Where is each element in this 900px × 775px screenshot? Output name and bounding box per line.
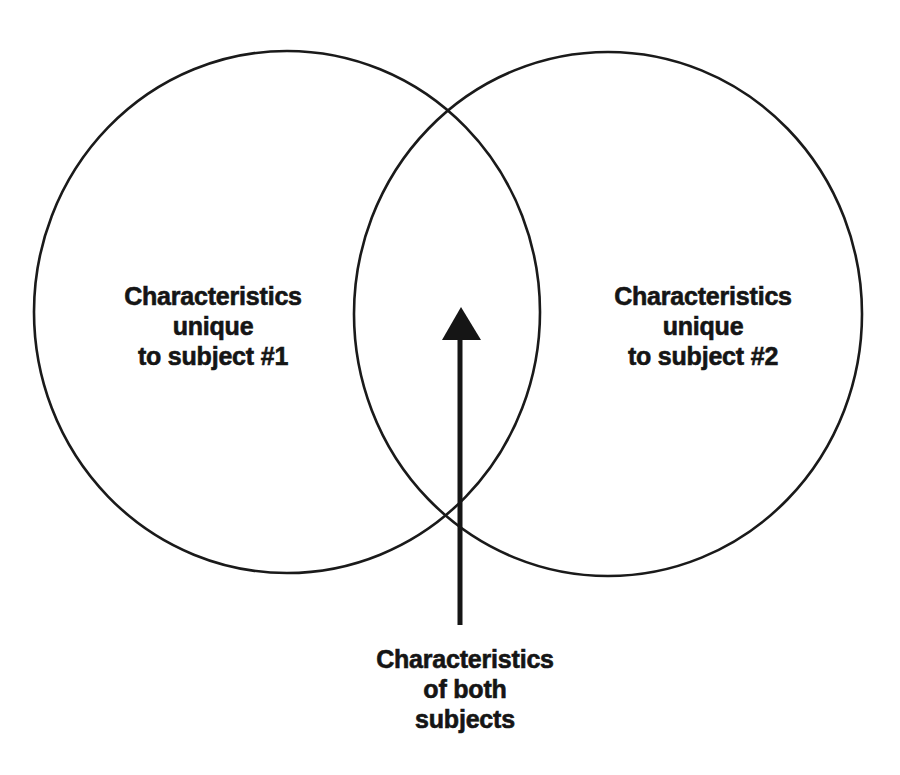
arrow-shaft bbox=[458, 336, 463, 625]
label-both-line-1: Characteristics bbox=[376, 644, 554, 674]
arrow-up-icon bbox=[442, 307, 481, 625]
label-both-subjects: Characteristics of both subjects bbox=[376, 644, 554, 734]
label-subject-1-line-1: Characteristics bbox=[124, 281, 302, 311]
label-subject-1-line-2: unique bbox=[124, 311, 302, 341]
label-subject-2-line-2: unique bbox=[614, 311, 792, 341]
arrow-head bbox=[442, 307, 481, 340]
label-subject-1: Characteristics unique to subject #1 bbox=[124, 281, 302, 371]
label-both-line-2: of both bbox=[376, 674, 554, 704]
label-subject-1-line-3: to subject #1 bbox=[124, 341, 302, 371]
label-subject-2: Characteristics unique to subject #2 bbox=[614, 281, 792, 371]
label-both-line-3: subjects bbox=[376, 704, 554, 734]
label-subject-2-line-1: Characteristics bbox=[614, 281, 792, 311]
label-subject-2-line-3: to subject #2 bbox=[614, 341, 792, 371]
